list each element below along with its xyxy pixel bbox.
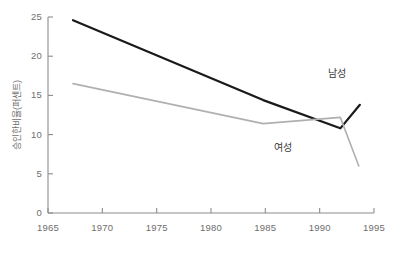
x-axis-tick-label: 1995 <box>354 222 393 233</box>
x-axis-tick-label: 1980 <box>191 222 231 233</box>
plot-area <box>0 0 393 256</box>
y-axis-tick-label: 10 <box>14 129 42 140</box>
y-axis-tick-label: 15 <box>14 89 42 100</box>
series-line-male <box>73 20 360 128</box>
series-annotation-male: 남성 <box>322 65 352 80</box>
x-axis-tick-label: 1965 <box>28 222 68 233</box>
x-axis-tick-label: 1985 <box>245 222 285 233</box>
x-axis-tick-label: 1990 <box>300 222 340 233</box>
series-annotation-female: 여성 <box>268 139 298 154</box>
y-axis-tick-label: 0 <box>14 207 42 218</box>
series-line-female <box>73 84 359 166</box>
chart-container: 승인한비율(퍼센트) 05101520251965197019751980198… <box>0 0 393 256</box>
x-axis-tick-label: 1975 <box>137 222 177 233</box>
x-axis-tick-label: 1970 <box>82 222 122 233</box>
y-axis-tick-label: 5 <box>14 168 42 179</box>
y-axis-tick-label: 20 <box>14 50 42 61</box>
y-axis-tick-label: 25 <box>14 11 42 22</box>
